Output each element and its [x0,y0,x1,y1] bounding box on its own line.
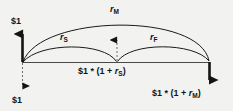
label-rate-multi-period: rM [110,5,119,14]
rate-multi-symbol: r [110,4,114,14]
label-value-mid-period: $1 * (1 + rS) [78,67,126,76]
arc-multi-period-line [23,25,209,62]
value-right-prefix: $1 * (1 + [152,88,189,98]
value-mid-prefix: $1 * (1 + [78,66,115,76]
arc-forward-line [118,47,210,62]
label-rate-spot: rS [60,33,68,42]
label-cash-outflow-bottom: $1 [12,96,22,105]
value-right-suffix: ) [198,88,201,98]
diagram-canvas: rM rS rF $1 $1 $1 * (1 + rS) $1 * (1 + r… [0,0,233,111]
label-value-terminal: $1 * (1 + rM) [152,89,201,98]
rate-forward-symbol: r [150,32,154,42]
rate-spot-symbol: r [60,32,64,42]
label-rate-forward: rF [150,33,158,42]
rate-spot-subscript: S [64,36,68,43]
value-right-subscript: M [192,92,197,99]
label-cash-inflow-top: $1 [11,17,21,26]
rate-multi-subscript: M [114,8,119,15]
arc-spot-line [23,47,117,62]
rate-forward-subscript: F [154,36,158,43]
value-mid-subscript: S [118,70,122,77]
value-mid-suffix: ) [123,66,126,76]
